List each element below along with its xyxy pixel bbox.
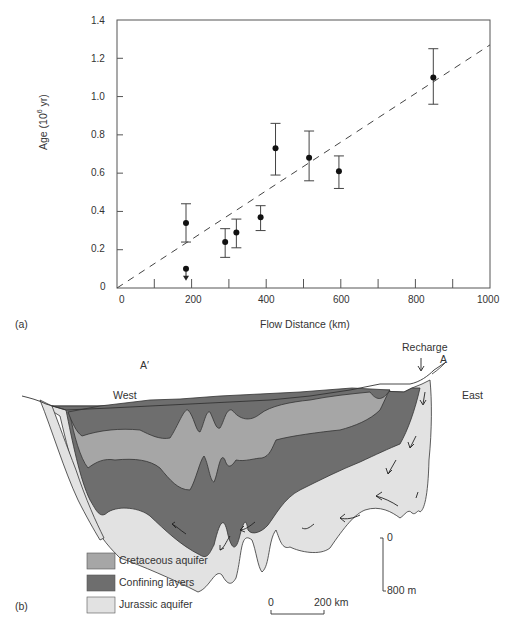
- data-marker: [273, 145, 279, 151]
- y-tick-label: 1.2: [91, 53, 105, 64]
- vertical-scale-bottom-label: 800 m: [387, 584, 416, 596]
- chart-plot-area: [0, 0, 510, 300]
- legend-label-confining: Confining layers: [119, 576, 194, 588]
- upper-limit-arrow-icon: [183, 276, 189, 281]
- point-a-prime-label: A′: [140, 359, 149, 371]
- plot-border: [117, 20, 490, 288]
- y-axis-title-exponent: 6: [36, 109, 43, 113]
- y-tick-label: 0.6: [91, 167, 105, 178]
- y-tick-label: 1.4: [91, 15, 105, 26]
- axis-ticks: [117, 58, 453, 288]
- legend-swatch-cretaceous: [87, 553, 115, 569]
- x-tick-label: 400: [258, 294, 275, 305]
- x-axis-title: Flow Distance (km): [260, 318, 350, 330]
- x-tick-label: 200: [185, 294, 202, 305]
- y-tick-label: 0.4: [91, 205, 105, 216]
- data-point: [256, 206, 266, 231]
- x-tick-label: 800: [408, 294, 425, 305]
- data-marker: [430, 74, 436, 80]
- y-tick-label: 0.2: [91, 243, 105, 254]
- data-marker: [336, 168, 342, 174]
- data-marker: [306, 155, 312, 161]
- plot-frame: [117, 20, 490, 288]
- data-point: [220, 229, 230, 258]
- point-a-label: A: [440, 353, 447, 365]
- y-tick-label: 0.8: [91, 129, 105, 140]
- data-point: [183, 266, 189, 281]
- legend-label-cretaceous: Cretaceous aquifer: [119, 554, 208, 566]
- data-marker: [183, 220, 189, 226]
- data-point: [181, 204, 191, 242]
- data-points: [181, 49, 438, 281]
- data-marker: [233, 229, 239, 235]
- panel-a-label: (a): [15, 318, 28, 330]
- data-point: [231, 219, 241, 248]
- data-point: [334, 156, 344, 189]
- data-marker: [258, 214, 264, 220]
- y-tick-label: 1.0: [91, 91, 105, 102]
- data-marker: [222, 239, 228, 245]
- age-vs-distance-chart: 0 0.2 0.4 0.6 0.8 1.0 1.2 1.4 0 200 400 …: [0, 0, 510, 340]
- data-point: [304, 131, 314, 181]
- y-axis-title-suffix: yr): [37, 94, 49, 109]
- dashed-trend-line: [117, 45, 490, 288]
- recharge-label: Recharge: [402, 341, 448, 353]
- cross-section-diagram: [0, 340, 510, 628]
- legend-label-jurassic: Jurassic aquifer: [119, 598, 193, 610]
- y-tick-label: 0: [100, 281, 106, 292]
- x-tick-label: 0: [119, 294, 125, 305]
- data-point: [271, 123, 281, 175]
- vertical-scale-top-label: 0: [387, 531, 393, 543]
- y-axis-title: Age (106 yr): [36, 94, 49, 150]
- x-tick-label: 600: [333, 294, 350, 305]
- y-axis-title-prefix: Age (10: [37, 113, 49, 150]
- horizontal-scale-bar: [271, 610, 324, 614]
- recharge-arrow: [418, 358, 424, 371]
- vertical-scale-bar: [380, 538, 386, 591]
- west-label: West: [113, 389, 137, 401]
- data-marker: [183, 266, 189, 272]
- data-point: [428, 49, 438, 105]
- panel-b-label: (b): [15, 600, 28, 612]
- legend-swatch-jurassic: [87, 597, 115, 613]
- legend-swatch-confining: [87, 575, 115, 591]
- east-label: East: [462, 389, 483, 401]
- horizontal-scale-right-label: 200 km: [314, 596, 348, 608]
- x-tick-label: 1000: [477, 294, 499, 305]
- horizontal-scale-left-label: 0: [268, 596, 274, 608]
- trend-line: [117, 45, 490, 288]
- aquifer-cross-section: Recharge A A′ West East Cretaceous aquif…: [0, 340, 510, 628]
